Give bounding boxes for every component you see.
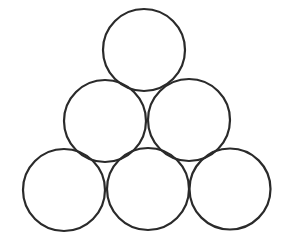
- top-row: [103, 9, 185, 91]
- bottom-row: [23, 148, 271, 231]
- circle-top: [103, 9, 185, 91]
- circle-bottom-middle: [107, 148, 189, 230]
- diagram-canvas: [0, 0, 286, 247]
- circle-pyramid-diagram: [0, 0, 286, 247]
- circle-bottom-right: [190, 149, 271, 230]
- circle-bottom-left: [23, 149, 105, 231]
- circle-middle-right: [148, 79, 230, 161]
